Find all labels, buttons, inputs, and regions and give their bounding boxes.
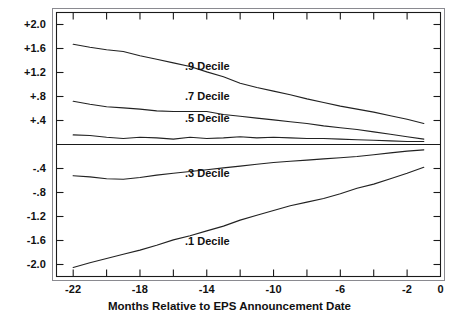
x-axis-tick-label: -10 xyxy=(254,283,294,295)
y-axis-tick-label: -.8 xyxy=(0,186,46,198)
curve-5-decile xyxy=(73,135,424,142)
series-label-1-decile: .1 Decile xyxy=(185,235,230,247)
y-axis-tick-label: -1.6 xyxy=(0,234,46,246)
y-axis-tick-label: -1.2 xyxy=(0,210,46,222)
y-axis-tick-label: +.4 xyxy=(0,114,46,126)
decile-curves xyxy=(73,44,424,267)
y-axis-tick-label: -.4 xyxy=(0,162,46,174)
chart-plot-area xyxy=(0,0,459,325)
y-axis-tick-label: +.8 xyxy=(0,90,46,102)
y-axis-tick-label: -2.0 xyxy=(0,258,46,270)
series-label-3-decile: .3 Decile xyxy=(185,167,230,179)
curve-9-decile xyxy=(73,44,424,123)
x-axis-tick-label: -22 xyxy=(53,283,93,295)
series-label-5-decile: .5 Decile xyxy=(185,112,230,124)
eps-decile-chart: +2.0+1.6+1.2+.8+.4-.4-.8-1.2-1.6-2.0 -22… xyxy=(0,0,459,325)
x-axis-tick-label: -14 xyxy=(187,283,227,295)
x-axis-tick-label: -6 xyxy=(320,283,360,295)
curve-7-decile xyxy=(73,101,424,139)
x-axis-tick-label: 0 xyxy=(421,283,459,295)
x-axis-tick-label: -18 xyxy=(120,283,160,295)
series-label-7-decile: .7 Decile xyxy=(185,90,230,102)
curve-1-decile xyxy=(73,167,424,267)
y-axis-tick-label: +2.0 xyxy=(0,18,46,30)
series-label-9-decile: .9 Decile xyxy=(185,60,230,72)
curve-3-decile xyxy=(73,150,424,179)
y-axis-tick-label: +1.2 xyxy=(0,66,46,78)
x-axis-title: Months Relative to EPS Announcement Date xyxy=(0,300,459,312)
y-axis-tick-label: +1.6 xyxy=(0,42,46,54)
